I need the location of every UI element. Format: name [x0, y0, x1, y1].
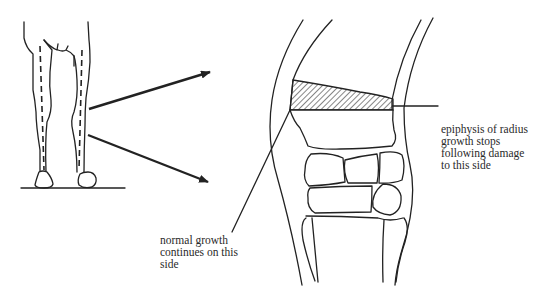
arrow-lower [88, 135, 208, 182]
left-leg-outer-contour [24, 22, 40, 172]
right-leg-outer-contour [84, 22, 90, 172]
carpal-joint-closeup [232, 18, 438, 285]
right-skin-contour [395, 18, 433, 285]
left-leg-inner-contour [44, 40, 52, 172]
accessory-carpal-bone [373, 184, 401, 215]
splint-bone-right [383, 218, 408, 282]
radius-right-edge [392, 20, 421, 140]
carpal-bone-upper-right [379, 152, 404, 183]
normal-growth-pointer-line [232, 110, 290, 232]
cannon-bone-joint-line [306, 216, 403, 220]
carpal-bone-lower-left [308, 186, 372, 213]
cannon-bone-left [302, 218, 318, 282]
label-epiphysis-growth-stops: epiphysis of radius growth stops followi… [441, 123, 528, 171]
chest-contour [44, 40, 74, 66]
arrow-upper [89, 72, 210, 109]
left-skin-contour [270, 20, 303, 285]
horse-front-legs [21, 22, 125, 188]
right-leg-inner-contour [72, 56, 77, 172]
right-hoof [78, 172, 96, 188]
right-leg-bone-axis [79, 50, 82, 170]
damaged-epiphysis-hatched [290, 80, 393, 110]
carpal-bone-upper-middle [344, 154, 378, 183]
radius-distal-end [290, 110, 396, 149]
left-hoof [35, 171, 53, 188]
arrows [88, 72, 210, 182]
carpal-bone-upper-left [305, 154, 346, 187]
label-normal-growth-continues: normal growth continues on this side [160, 234, 238, 270]
